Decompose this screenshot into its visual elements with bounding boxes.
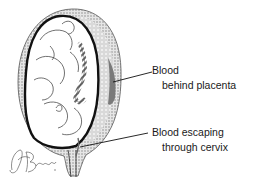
label-line-2: behind placenta: [152, 79, 236, 91]
label-line-1: Blood: [152, 64, 236, 76]
artist-signature: [10, 150, 56, 173]
label-line-2: through cervix: [152, 141, 228, 153]
label-blood-escaping-through-cervix: Blood escaping through cervix: [152, 126, 228, 153]
label-line-1: Blood escaping: [152, 126, 228, 138]
placental-abruption-illustration: [0, 0, 256, 183]
label-blood-behind-placenta: Blood behind placenta: [152, 64, 236, 91]
